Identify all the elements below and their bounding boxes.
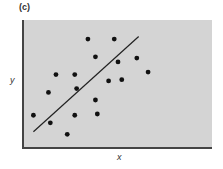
data-point — [93, 54, 98, 59]
data-point — [134, 56, 139, 61]
data-point — [74, 86, 79, 91]
x-axis-label: x — [117, 152, 122, 162]
data-point — [112, 37, 117, 42]
data-point — [48, 120, 53, 125]
y-axis-label: y — [10, 75, 15, 85]
plot-area — [22, 20, 212, 149]
data-point — [93, 98, 98, 103]
scatter-plot — [24, 20, 212, 147]
data-point — [65, 132, 70, 137]
data-point — [119, 77, 124, 82]
data-point — [146, 70, 151, 75]
data-point — [95, 112, 100, 117]
data-point — [86, 37, 91, 42]
regression-line — [33, 37, 138, 132]
data-point — [46, 90, 51, 95]
data-point — [54, 72, 59, 77]
data-point — [72, 113, 77, 118]
data-point — [31, 113, 36, 118]
data-point — [72, 72, 77, 77]
data-point — [106, 79, 111, 84]
data-point — [116, 60, 121, 65]
panel-label: (c) — [19, 2, 30, 12]
